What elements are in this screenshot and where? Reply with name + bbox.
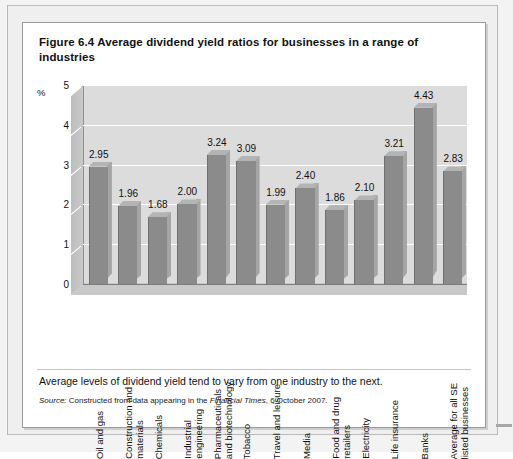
y-tick-label: 1: [39, 239, 69, 250]
x-category-label: Chemicals: [153, 415, 164, 459]
chart-plot-area: % 012345 2.951.961.682.003.243.091.992.4…: [37, 79, 473, 331]
bar: 4.43: [414, 108, 432, 284]
source-text-before: Constructed from data appearing in the: [67, 396, 210, 405]
bar-value-label: 2.00: [178, 186, 197, 197]
y-tick-label: 4: [39, 119, 69, 130]
bar-series: 2.951.961.682.003.243.091.992.401.862.10…: [83, 85, 467, 284]
y-tick-label: 5: [39, 80, 69, 91]
x-category-label: Tobacco: [241, 424, 252, 459]
y-tick-label: 2: [39, 199, 69, 210]
bar-front-face: [414, 108, 433, 284]
chart-panel-3d: 2.951.961.682.003.243.091.992.401.862.10…: [71, 85, 467, 295]
bar-front-face: [118, 206, 137, 284]
x-category-label: Average for all SE listed businesses: [448, 383, 470, 459]
x-category-label: Life insurance: [389, 400, 400, 459]
bar-value-label: 1.99: [266, 187, 285, 198]
figure-title: Figure 6.4 Average dividend yield ratios…: [39, 35, 459, 65]
x-axis-category-labels: Oil and gasConstruction and materialsChe…: [85, 351, 469, 459]
bar-value-label: 2.83: [443, 153, 462, 164]
bar-front-face: [177, 204, 196, 284]
bar: 2.40: [295, 188, 313, 284]
figure-caption: Average levels of dividend yield tend to…: [39, 375, 469, 387]
bar-value-label: 3.09: [237, 143, 256, 154]
bar-value-label: 2.40: [296, 170, 315, 181]
source-prefix: Source:: [39, 396, 67, 405]
page-edge-tick: [496, 424, 512, 427]
bar-value-label: 4.43: [414, 90, 433, 101]
x-category-label: Industrial engineering: [182, 409, 204, 459]
y-tick-label: 0: [39, 279, 69, 290]
bar: 1.68: [148, 217, 166, 284]
bar-front-face: [236, 161, 255, 284]
y-axis-tick-labels: 012345: [37, 79, 71, 331]
bar-front-face: [207, 155, 226, 284]
bar-front-face: [295, 188, 314, 284]
bar: 2.10: [354, 200, 372, 284]
x-axis-line: [83, 284, 467, 285]
x-category-label: Pharmaceuticals and biotechnology: [212, 382, 234, 459]
caption-divider: [37, 369, 471, 370]
bar-value-label: 1.86: [325, 192, 344, 203]
source-publication: Financial Times: [210, 396, 266, 405]
bar: 2.95: [89, 167, 107, 284]
bar-value-label: 1.96: [119, 188, 138, 199]
bar-front-face: [89, 167, 108, 284]
bar: 2.00: [177, 204, 195, 284]
bar-front-face: [148, 217, 167, 284]
bar: 2.83: [443, 171, 461, 284]
bar-front-face: [443, 171, 462, 284]
figure-source: Source: Constructed from data appearing …: [39, 396, 469, 405]
bar-value-label: 3.21: [384, 138, 403, 149]
bar-front-face: [354, 200, 373, 284]
y-tick-label: 3: [39, 159, 69, 170]
panel-left-wall: [71, 85, 83, 295]
bar: 1.96: [118, 206, 136, 284]
x-category-label: Media: [301, 433, 312, 459]
bar: 1.86: [325, 210, 343, 284]
bar: 3.21: [384, 156, 402, 284]
source-text-after: , 6 October 2007.: [266, 396, 328, 405]
x-category-label: Electricity: [360, 418, 371, 459]
figure-box: Figure 6.4 Average dividend yield ratios…: [22, 22, 486, 428]
bar-value-label: 2.10: [355, 182, 374, 193]
bar-front-face: [384, 156, 403, 284]
x-category-label: Banks: [419, 433, 430, 459]
bar: 3.09: [236, 161, 254, 284]
bar: 1.99: [266, 205, 284, 284]
bar: 3.24: [207, 155, 225, 284]
bar-value-label: 3.24: [207, 137, 226, 148]
bar-front-face: [266, 205, 285, 284]
bar-value-label: 2.95: [89, 149, 108, 160]
bar-front-face: [325, 210, 344, 284]
x-category-label: Oil and gas: [94, 411, 105, 459]
bar-value-label: 1.68: [148, 199, 167, 210]
x-category-label: Food and drug retailers: [330, 397, 352, 459]
